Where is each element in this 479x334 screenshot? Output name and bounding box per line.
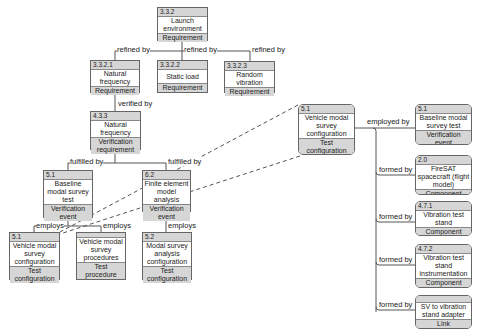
node-id: 6.2 <box>143 171 190 180</box>
node-natural-frequency-verification[interactable]: 4.3.3 Natural frequency Verification req… <box>90 111 141 150</box>
requirements-traceability-diagram: 3.3.2 Launch environment Requirement ref… <box>0 0 479 334</box>
node-modal-survey-analysis-configuration[interactable]: 5.2 Modal survey analysis configuration … <box>142 232 192 280</box>
node-name: SV to vibration stand adapter <box>416 303 471 319</box>
node-type: Verification event <box>416 130 471 145</box>
detail-node-vehicle-modal-survey-configuration[interactable]: 5.1 Vehicle modal survey configuration T… <box>298 104 355 155</box>
node-name: Baseline modal survey test <box>416 114 471 130</box>
node-name: Random vibration <box>225 71 274 87</box>
node-id: 3.3.2.2 <box>158 61 207 70</box>
node-id: 5.1 <box>10 233 59 242</box>
node-name: FireSAT spacecraft (flight model) <box>416 165 471 189</box>
node-name: Natural frequency <box>91 121 140 137</box>
node-vehicle-modal-survey-procedures[interactable]: Vehicle modal survey procedures Test pro… <box>76 232 126 280</box>
node-type: Requirement <box>158 83 207 92</box>
node-id: 4.7.1 <box>416 202 471 211</box>
detail-node-baseline-modal-survey-test[interactable]: 5.1 Baseline modal survey test Verificat… <box>415 104 472 145</box>
label-refined-by: refined by <box>184 45 217 54</box>
node-type: Component <box>416 278 471 287</box>
node-name: Finite element model analysis <box>143 180 190 204</box>
node-id: 5.1 <box>416 105 471 114</box>
node-natural-frequency-requirement[interactable]: 3.3.2.1 Natural frequency Requirement <box>90 60 140 93</box>
node-id: 4.7.2 <box>416 245 471 254</box>
node-vehicle-modal-survey-configuration[interactable]: 5.1 Vehicle modal survey configuration T… <box>9 232 60 280</box>
node-name: Vehicle modal survey configuration <box>10 242 59 266</box>
node-name: Vehicle modal survey procedures <box>77 238 125 262</box>
node-id: 4.3.3 <box>91 112 140 121</box>
node-name: Launch environment <box>158 17 207 33</box>
node-id: 2.0 <box>416 156 471 165</box>
node-name: Static load <box>158 70 207 83</box>
node-name: Natural frequency <box>91 70 139 86</box>
node-id: 5.1 <box>44 171 92 180</box>
node-id: 3.3.2 <box>158 8 207 17</box>
detail-node-vibration-test-stand[interactable]: 4.7.1 Vibration test stand Component <box>415 201 472 236</box>
label-refined-by: refined by <box>252 45 285 54</box>
label-formed-by: formed by <box>379 255 412 264</box>
node-type: Requirement <box>225 87 274 96</box>
label-employs: employs <box>168 221 196 230</box>
node-type: Verification requirement <box>91 137 140 154</box>
node-type: Verification event <box>44 204 92 221</box>
node-type: Link <box>416 319 471 328</box>
node-type: Requirement <box>91 86 139 95</box>
node-type: Test configuration <box>10 266 59 283</box>
node-name: Vibration test stand instrumentation <box>416 254 471 278</box>
node-type: Component <box>416 227 471 236</box>
node-id <box>416 296 471 303</box>
node-id: 3.3.2.1 <box>91 61 139 70</box>
node-random-vibration[interactable]: 3.3.2.3 Random vibration Requirement <box>224 61 275 93</box>
label-employs: employs <box>36 221 64 230</box>
label-fulfilled-by: fulfilled by <box>168 157 201 166</box>
node-baseline-modal-survey-test[interactable]: 5.1 Baseline modal survey test Verificat… <box>43 170 93 218</box>
node-type: Verification event <box>143 204 190 221</box>
node-type: Test configuration <box>299 138 354 155</box>
node-id: 3.3.2.3 <box>225 62 274 71</box>
node-type: Requirement <box>158 33 207 42</box>
node-name: Baseline modal survey test <box>44 180 92 204</box>
label-formed-by: formed by <box>379 300 412 309</box>
label-employs: employs <box>103 221 131 230</box>
node-type: Test procedure <box>77 262 125 279</box>
label-verified-by: verified by <box>118 99 152 108</box>
label-formed-by: formed by <box>379 212 412 221</box>
label-fulfilled-by: fulfilled by <box>70 157 103 166</box>
node-id: 5.1 <box>299 105 354 114</box>
node-launch-environment[interactable]: 3.3.2 Launch environment Requirement <box>157 7 208 41</box>
detail-node-firesat-spacecraft[interactable]: 2.0 FireSAT spacecraft (flight model) Co… <box>415 155 472 195</box>
node-name: Modal survey analysis configuration <box>143 242 191 266</box>
node-id: 5.2 <box>143 233 191 242</box>
node-static-load[interactable]: 3.3.2.2 Static load Requirement <box>157 60 208 93</box>
node-name: Vehicle modal survey configuration <box>299 114 354 138</box>
label-employed-by: employed by <box>367 117 410 126</box>
node-finite-element-model-analysis[interactable]: 6.2 Finite element model analysis Verifi… <box>142 170 191 212</box>
detail-node-vibration-test-stand-instrumentation[interactable]: 4.7.2 Vibration test stand instrumentati… <box>415 244 472 288</box>
detail-node-sv-to-vibration-stand-adapter[interactable]: SV to vibration stand adapter Link <box>415 295 472 329</box>
node-type: Component <box>416 189 471 195</box>
node-name: Vibration test stand <box>416 211 471 227</box>
node-type: Test configuration <box>143 266 191 283</box>
label-refined-by: refined by <box>117 45 150 54</box>
label-formed-by: formed by <box>379 165 412 174</box>
